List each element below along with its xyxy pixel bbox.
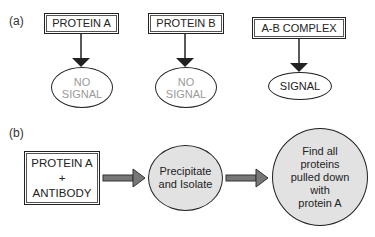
- find-proteins-node: Find all proteins pulled down with prote…: [272, 128, 368, 226]
- step-text: and Isolate: [159, 178, 213, 191]
- ab-complex-box: A-B COMPLEX: [252, 17, 346, 39]
- arrow-down-icon: [72, 33, 90, 67]
- no-signal-node: NO SIGNAL: [51, 67, 113, 108]
- result-text: NO: [74, 76, 91, 88]
- protein-antibody-box: PROTEIN A + ANTIBODY: [24, 151, 100, 205]
- panel-b-label: (b): [9, 126, 24, 140]
- step-text: Precipitate: [160, 165, 212, 178]
- step-text: +: [59, 171, 66, 186]
- step-text: with: [310, 184, 330, 197]
- arrow-down-icon: [176, 33, 194, 67]
- result-text: SIGNAL: [62, 88, 102, 100]
- protein-a-box: PROTEIN A: [44, 13, 119, 34]
- protein-a-label: PROTEIN A: [52, 17, 111, 30]
- result-text: SIGNAL: [280, 80, 320, 92]
- panel-a-label: (a): [9, 14, 24, 28]
- result-text: NO: [178, 76, 195, 88]
- no-signal-node: NO SIGNAL: [155, 67, 217, 108]
- protein-b-label: PROTEIN B: [156, 17, 215, 30]
- signal-node: SIGNAL: [268, 72, 332, 100]
- arrow-right-icon: [226, 169, 268, 187]
- step-text: proteins: [300, 158, 339, 171]
- ab-complex-label: A-B COMPLEX: [261, 22, 336, 35]
- protein-b-box: PROTEIN B: [148, 13, 224, 34]
- precipitate-isolate-node: Precipitate and Isolate: [148, 145, 223, 211]
- arrow-right-icon: [103, 169, 145, 187]
- step-text: Find all: [302, 145, 337, 158]
- step-text: ANTIBODY: [33, 186, 92, 201]
- arrow-down-icon: [290, 38, 308, 72]
- step-text: PROTEIN A: [31, 156, 92, 171]
- step-text: pulled down: [291, 171, 350, 184]
- result-text: SIGNAL: [166, 88, 206, 100]
- step-text: protein A: [298, 197, 341, 210]
